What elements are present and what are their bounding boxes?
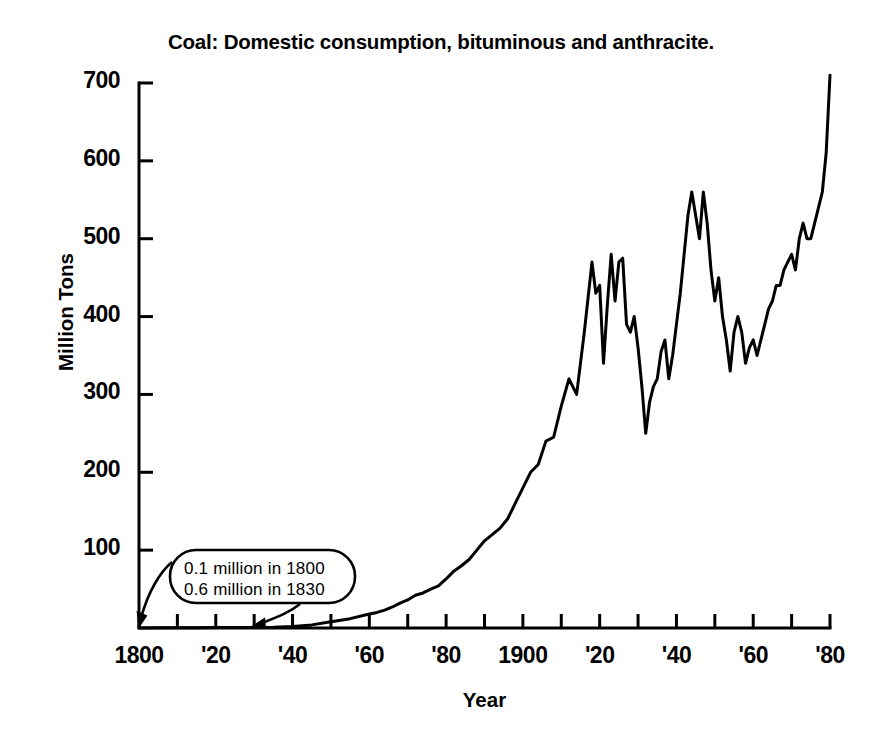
x-tick-marks xyxy=(139,614,830,628)
callout-line-2: 0.6 million in 1830 xyxy=(184,580,325,599)
data-series-line xyxy=(139,75,830,628)
callout-arrow-to-1800 xyxy=(141,562,172,618)
axis-lines xyxy=(139,83,830,628)
callout-arrowhead-1830 xyxy=(250,618,266,629)
early-values-callout: 0.1 million in 1800 0.6 million in 1830 xyxy=(137,550,356,628)
chart-figure: Coal: Domestic consumption, bituminous a… xyxy=(0,0,882,747)
callout-arrow-to-1830 xyxy=(262,604,300,623)
plot-canvas: 0.1 million in 1800 0.6 million in 1830 xyxy=(0,0,882,747)
callout-line-1: 0.1 million in 1800 xyxy=(184,559,325,578)
y-tick-marks xyxy=(139,83,153,550)
